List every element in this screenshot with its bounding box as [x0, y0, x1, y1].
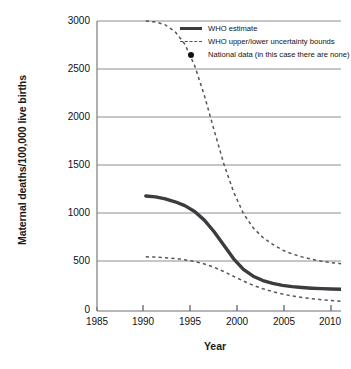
series-lower-bound: [146, 257, 341, 301]
axis-lines: [97, 21, 341, 311]
legend-item-uncertainty-bounds: WHO upper/lower uncertainty bounds: [176, 35, 349, 48]
solid-line-key-icon: [176, 27, 206, 30]
x-axis-ticks: [97, 305, 331, 311]
chart-legend: WHO estimate WHO upper/lower uncertainty…: [176, 22, 349, 61]
dashed-line-key-icon: [176, 41, 206, 42]
series-who-estimate: [146, 196, 341, 289]
chart-container: Maternal deaths/100,000 live births 3000…: [0, 0, 351, 369]
legend-label-national-data: National data (in this case there are no…: [206, 48, 349, 61]
legend-item-who-estimate: WHO estimate: [176, 22, 349, 35]
legend-label-who-estimate: WHO estimate: [206, 22, 257, 35]
legend-item-national-data: National data (in this case there are no…: [176, 48, 349, 61]
legend-label-uncertainty-bounds: WHO upper/lower uncertainty bounds: [206, 35, 335, 48]
dot-marker-key-icon: [176, 52, 206, 58]
